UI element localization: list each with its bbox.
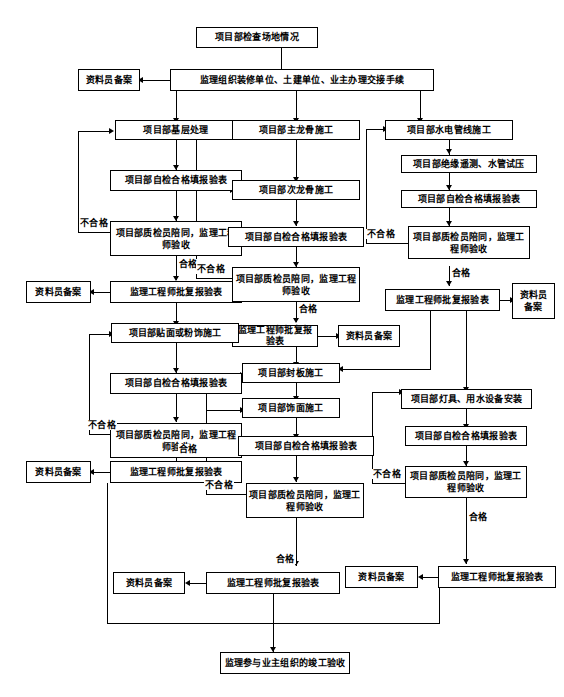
node-pipe-test[interactable]: 项目部绝缘遥测、水管试压 (401, 155, 537, 173)
node-base-self-check[interactable]: 项目部自检合格填报验表 (110, 170, 242, 191)
edge-surface-fail-h2 (89, 334, 111, 335)
label-pass-keel: 合格 (298, 304, 319, 314)
arrow-lamp-archive (418, 574, 423, 580)
edge-keel-archive (318, 336, 338, 337)
edge-base-fail-h2 (78, 131, 111, 132)
node-surface-archive[interactable]: 资料员备案 (26, 461, 91, 483)
arrow-decor-inspect (293, 477, 299, 482)
arrow-surface-inspect (173, 417, 179, 422)
node-keel-inspect[interactable]: 项目部质检员陪同，监理工程师验收 (232, 267, 360, 302)
edge-handover-archive (140, 80, 170, 81)
node-lamp-install[interactable]: 项目部灯具、用水设备安装 (401, 389, 532, 409)
node-pipe-build[interactable]: 项目部水电管线施工 (385, 120, 513, 140)
edge-pipe-board-v (430, 311, 431, 369)
edge-decor-pass (296, 518, 297, 566)
label-pass-surface: 合格 (178, 444, 199, 454)
node-base-inspect[interactable]: 项目部质检员陪同，监理工程师验收 (110, 221, 242, 256)
edge-lamp-fail-h1 (372, 483, 405, 484)
node-final[interactable]: 监理参与业主组织的竣工验收 (220, 652, 350, 674)
edge-pipe-board-h (340, 369, 431, 370)
node-keel-self-check[interactable]: 项目部自检合格填报验表 (228, 227, 364, 247)
edge-pipe-fail-v (366, 129, 367, 244)
node-decor-approve[interactable]: 监理工程师批复报验表 (206, 572, 340, 594)
edge-decor-final (273, 594, 274, 652)
node-surface-build[interactable]: 项目部贴面或粉饰施工 (111, 323, 239, 343)
edge-mainkeel-subkeel (296, 140, 297, 182)
edge-surface-final-v (107, 483, 108, 623)
node-lamp-archive[interactable]: 资料员备案 (345, 566, 418, 588)
node-board-build[interactable]: 项目部封板施工 (242, 363, 340, 383)
arrow-pipe-pass (446, 281, 452, 286)
label-fail-keel: 不合格 (196, 264, 226, 274)
node-handover[interactable]: 监理组织装修单位、土建单位、业主办理交接手续 (170, 69, 434, 91)
edge-keel-fail-h1 (196, 278, 233, 279)
node-sub-keel[interactable]: 项目部次龙骨施工 (232, 180, 360, 200)
label-pass-lamp: 合格 (468, 512, 489, 522)
node-base-archive[interactable]: 资料员备案 (26, 281, 91, 303)
edge-lamp-final (439, 588, 440, 624)
edge-pipe-fail-h1 (366, 243, 408, 244)
node-pipe-archive[interactable]: 资料员备案 (512, 283, 555, 319)
arrow-lamp-pass (463, 559, 469, 564)
edge-lamp-fail-h2 (372, 392, 401, 393)
node-pipe-approve[interactable]: 监理工程师批复报验表 (385, 289, 500, 311)
node-decor-build[interactable]: 项目部饰面施工 (242, 398, 340, 418)
arrow-decor-archive (185, 580, 190, 586)
label-fail-pipe: 不合格 (366, 229, 396, 239)
node-surface-inspect[interactable]: 项目部质检员陪同，监理工程师验收 (110, 423, 242, 458)
node-lamp-approve[interactable]: 监理工程师批复报验表 (438, 566, 556, 588)
label-fail-surface: 不合格 (87, 420, 117, 430)
node-main-keel[interactable]: 项目部主龙骨施工 (232, 120, 360, 140)
edge-pipe-lamp (466, 311, 467, 392)
label-pass-pipe: 合格 (451, 268, 472, 278)
arrow-subkeel-selfcheck (293, 221, 299, 226)
node-base-treat[interactable]: 项目部基层处理 (115, 120, 237, 140)
node-pipe-self-check[interactable]: 项目部自检合格填报验表 (401, 190, 537, 208)
node-start[interactable]: 项目部检查场地情况 (196, 27, 318, 48)
label-fail-lamp: 不合格 (372, 469, 402, 479)
arrow-base-fail (109, 128, 114, 134)
edge-decor-fail-h3 (206, 410, 242, 411)
node-decor-inspect[interactable]: 项目部质检员陪同，监理工程师验收 (246, 483, 364, 518)
edge-lamp-pass (466, 498, 467, 564)
node-pipe-inspect[interactable]: 项目部质检员陪同，监理工程师验收 (408, 226, 530, 259)
node-keel-archive[interactable]: 资料员备案 (338, 325, 400, 347)
node-surface-self-check[interactable]: 项目部自检合格填报验表 (110, 373, 242, 394)
edge-decor-fail-h1 (206, 494, 246, 495)
node-decor-archive[interactable]: 资料员备案 (113, 572, 185, 594)
node-archive-top[interactable]: 资料员备案 (78, 69, 140, 91)
node-lamp-self-check[interactable]: 项目部自检合格填报验表 (405, 426, 527, 446)
node-lamp-inspect[interactable]: 项目部质检员陪同，监理工程师验收 (405, 466, 527, 498)
flowchart-canvas: 项目部检查场地情况 监理组织装修单位、土建单位、业主办理交接手续 资料员备案 项… (0, 0, 564, 697)
label-fail-base: 不合格 (79, 218, 109, 228)
label-pass-decor: 合格 (275, 554, 296, 564)
arrow-pipe-test (446, 149, 452, 154)
node-base-approve[interactable]: 监理工程师批复报验表 (110, 281, 242, 303)
edge-keel-fail-v (196, 131, 197, 279)
arrow-keel-pass (293, 318, 299, 323)
node-keel-approve[interactable]: 监理工程师批复报验表 (232, 325, 318, 347)
label-fail-decor: 不合格 (204, 480, 234, 490)
node-decor-self-check[interactable]: 项目部自检合格填报验表 (238, 436, 374, 456)
